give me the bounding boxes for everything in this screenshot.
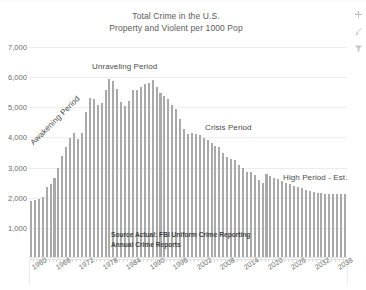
chart-filter-icon[interactable] bbox=[353, 43, 364, 54]
bar[interactable] bbox=[57, 168, 59, 258]
bar[interactable] bbox=[73, 133, 75, 258]
x-axis-tick bbox=[284, 259, 285, 262]
y-axis: 1,0002,0003,0004,0005,0006,0007,000 bbox=[0, 47, 27, 258]
chart-side-buttons bbox=[352, 9, 364, 54]
bar[interactable] bbox=[34, 200, 36, 258]
bar[interactable] bbox=[101, 103, 103, 258]
y-axis-tick-label: 5,000 bbox=[1, 103, 27, 112]
bar[interactable] bbox=[273, 178, 275, 258]
y-axis-tick-label: 4,000 bbox=[1, 133, 27, 142]
bar[interactable] bbox=[317, 193, 319, 258]
x-axis-tick bbox=[123, 259, 124, 262]
bar[interactable] bbox=[50, 184, 52, 258]
bar[interactable] bbox=[324, 194, 326, 258]
bar[interactable] bbox=[328, 194, 330, 258]
bar[interactable] bbox=[61, 156, 63, 258]
bar[interactable] bbox=[89, 98, 91, 258]
plot-area bbox=[29, 47, 347, 258]
source-note-line-2: Annual Crime Reports bbox=[111, 240, 250, 250]
x-axis-tick bbox=[76, 259, 77, 262]
x-axis-tick bbox=[214, 259, 215, 262]
bar[interactable] bbox=[30, 201, 32, 258]
crime-bar-chart[interactable]: Total Crime in the U.S. Property and Vio… bbox=[0, 0, 366, 290]
source-note: Source Actual: FBI Uniform Crime Reporti… bbox=[111, 230, 250, 249]
x-axis-tick bbox=[143, 259, 144, 262]
bar[interactable] bbox=[320, 193, 322, 258]
y-axis-tick-label: 7,000 bbox=[1, 43, 27, 52]
x-axis-tick bbox=[166, 259, 167, 262]
y-axis-tick-label: 1,000 bbox=[1, 223, 27, 232]
bar[interactable] bbox=[46, 187, 48, 258]
x-axis: 1960196619721978198419901996200220082014… bbox=[29, 259, 347, 290]
x-axis-tick bbox=[147, 259, 148, 262]
bar[interactable] bbox=[344, 194, 346, 258]
x-axis-tick bbox=[265, 259, 266, 262]
x-axis-tick bbox=[72, 259, 73, 262]
bar[interactable] bbox=[53, 178, 55, 258]
crisis-period-annotation: Crisis Period bbox=[205, 123, 252, 132]
chart-subtitle: Property and Violent per 1000 Pop bbox=[0, 23, 352, 33]
x-axis-tick bbox=[308, 259, 309, 262]
bar[interactable] bbox=[313, 192, 315, 258]
x-axis-tick bbox=[119, 259, 120, 262]
bar[interactable] bbox=[69, 138, 71, 258]
x-axis-tick bbox=[217, 259, 218, 262]
bar[interactable] bbox=[77, 139, 79, 258]
bar[interactable] bbox=[305, 190, 307, 258]
x-axis-tick bbox=[261, 259, 262, 262]
x-axis-tick bbox=[237, 259, 238, 262]
chart-top-edge bbox=[0, 0, 366, 3]
bar[interactable] bbox=[85, 112, 87, 258]
bar[interactable] bbox=[340, 194, 342, 258]
bar[interactable] bbox=[97, 105, 99, 258]
bar[interactable] bbox=[93, 99, 95, 258]
bar[interactable] bbox=[81, 133, 83, 258]
bar[interactable] bbox=[265, 174, 267, 258]
bar[interactable] bbox=[65, 147, 67, 258]
bar[interactable] bbox=[289, 184, 291, 258]
x-axis-tick bbox=[331, 259, 332, 262]
bar[interactable] bbox=[105, 90, 107, 258]
x-axis-tick bbox=[288, 259, 289, 262]
bar[interactable] bbox=[332, 194, 334, 258]
high-period-est-annotation: High Period - Est. bbox=[283, 173, 348, 182]
x-axis-tick bbox=[49, 259, 50, 262]
bar[interactable] bbox=[38, 199, 40, 258]
bar[interactable] bbox=[297, 187, 299, 258]
bar[interactable] bbox=[336, 194, 338, 258]
x-axis-tick bbox=[194, 259, 195, 262]
x-axis-tick bbox=[190, 259, 191, 262]
bar[interactable] bbox=[281, 181, 283, 258]
unraveling-period-annotation: Unraveling Period bbox=[92, 62, 157, 71]
x-axis-tick bbox=[241, 259, 242, 262]
x-axis-tick bbox=[96, 259, 97, 262]
bar-series[interactable] bbox=[29, 47, 347, 258]
bar[interactable] bbox=[258, 180, 260, 258]
bar[interactable] bbox=[277, 179, 279, 258]
bar[interactable] bbox=[309, 191, 311, 258]
y-axis-tick-label: 6,000 bbox=[1, 73, 27, 82]
x-axis-tick bbox=[100, 259, 101, 262]
x-axis-tick bbox=[335, 259, 336, 262]
x-axis-tick bbox=[312, 259, 313, 262]
bar[interactable] bbox=[42, 197, 44, 258]
chart-title: Total Crime in the U.S. bbox=[0, 11, 352, 21]
bar[interactable] bbox=[285, 183, 287, 258]
source-note-line-1: Source Actual: FBI Uniform Crime Reporti… bbox=[111, 230, 250, 240]
bar[interactable] bbox=[254, 175, 256, 258]
y-axis-tick-label: 3,000 bbox=[1, 163, 27, 172]
chart-elements-add-button[interactable] bbox=[353, 9, 364, 20]
chart-styles-brush-icon[interactable] bbox=[353, 26, 364, 37]
bar[interactable] bbox=[301, 188, 303, 258]
bar[interactable] bbox=[262, 183, 264, 258]
x-axis-tick bbox=[170, 259, 171, 262]
bar[interactable] bbox=[293, 186, 295, 258]
bar[interactable] bbox=[269, 176, 271, 258]
x-axis-tick bbox=[53, 259, 54, 262]
y-axis-tick-label: 2,000 bbox=[1, 193, 27, 202]
